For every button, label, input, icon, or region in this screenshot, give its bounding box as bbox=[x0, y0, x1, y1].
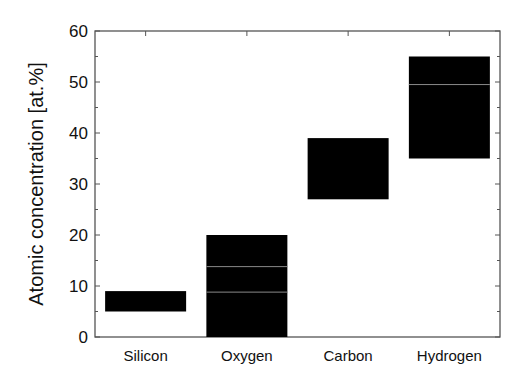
y-tick-label: 50 bbox=[69, 73, 88, 92]
bar-oxygen bbox=[206, 235, 287, 337]
y-tick-label: 40 bbox=[69, 124, 88, 143]
y-tick-label: 60 bbox=[69, 22, 88, 41]
chart: 0102030405060SiliconOxygenCarbonHydrogen… bbox=[0, 0, 531, 386]
y-tick-label: 10 bbox=[69, 277, 88, 296]
x-category-label: Silicon bbox=[124, 347, 168, 364]
bar-hydrogen bbox=[409, 57, 490, 159]
y-tick-label: 20 bbox=[69, 226, 88, 245]
y-tick-label: 0 bbox=[79, 328, 88, 347]
y-axis-label: Atomic concentration [at.%] bbox=[25, 62, 47, 305]
x-category-label: Oxygen bbox=[221, 347, 273, 364]
x-category-label: Carbon bbox=[324, 347, 373, 364]
x-category-label: Hydrogen bbox=[417, 347, 482, 364]
bar-silicon bbox=[105, 291, 186, 311]
y-tick-label: 30 bbox=[69, 175, 88, 194]
bar-carbon bbox=[308, 138, 389, 199]
plot-area: 0102030405060SiliconOxygenCarbonHydrogen bbox=[69, 22, 500, 364]
